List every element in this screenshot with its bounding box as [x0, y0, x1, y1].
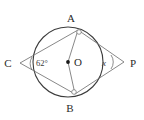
- center-dot-o: [66, 60, 70, 64]
- label-point-p: P: [130, 57, 136, 69]
- geometry-figure: A B C O P 62° x: [0, 0, 144, 120]
- angle-arc-at-p: [111, 55, 113, 69]
- tangent-b-to-p: [75, 62, 124, 94]
- geometry-canvas: A B C O P 62° x: [0, 0, 144, 120]
- open-circle-marker-at-b: [72, 90, 77, 95]
- label-point-c: C: [4, 57, 11, 69]
- label-point-b: B: [66, 102, 73, 114]
- angle-arc-at-c: [30, 57, 32, 70]
- tangent-a-to-p: [78, 30, 124, 62]
- label-point-a: A: [67, 12, 75, 24]
- label-angle-p: x: [101, 58, 106, 68]
- open-circle-marker-at-a: [77, 30, 82, 35]
- label-angle-c: 62°: [36, 58, 48, 68]
- label-point-o: O: [74, 56, 82, 68]
